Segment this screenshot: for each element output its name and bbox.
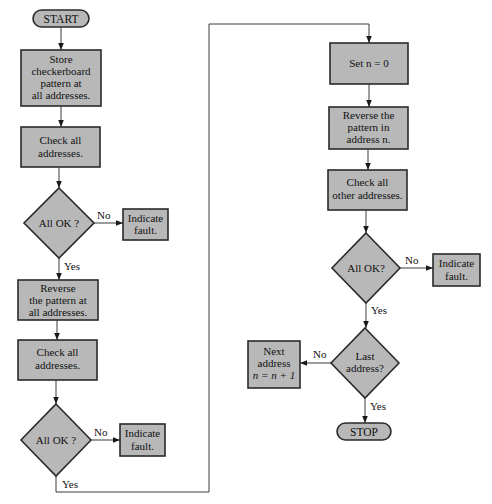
check2-line-1: Check all bbox=[37, 346, 79, 358]
last-yes-label: Yes bbox=[370, 400, 386, 412]
store-line-2: checkerboard bbox=[31, 65, 91, 77]
stop-terminal: STOP bbox=[337, 423, 391, 440]
fault3-line-2: fault. bbox=[445, 270, 468, 282]
reverse-n-line-2: pattern in bbox=[348, 121, 390, 133]
stop-label: STOP bbox=[350, 426, 378, 438]
start-terminal: START bbox=[33, 10, 89, 27]
fault2-line-1: Indicate bbox=[125, 427, 161, 439]
decision-last-address: Last address? bbox=[331, 328, 399, 398]
reverse-n-line-1: Reverse the bbox=[343, 109, 395, 121]
store-pattern-box: Store checkerboard pattern at all addres… bbox=[21, 50, 101, 106]
connector-decision2-yes-to-set-n bbox=[56, 24, 369, 492]
decision-all-ok-1: All OK ? bbox=[24, 188, 94, 258]
reverse-all-line-1: Reverse bbox=[40, 282, 76, 294]
check-other-line-2: other addresses. bbox=[332, 189, 403, 201]
decision2-yes-label: Yes bbox=[62, 478, 78, 490]
store-line-4: all addresses. bbox=[32, 89, 91, 101]
reverse-all-line-2: the pattern at bbox=[29, 294, 86, 306]
flowchart: START Store checkerboard pattern at all … bbox=[0, 0, 492, 504]
indicate-fault-box-1: Indicate fault. bbox=[123, 209, 168, 240]
check-other-addresses-box: Check all other addresses. bbox=[328, 170, 407, 210]
decision3-no-label: No bbox=[405, 254, 419, 266]
start-label: START bbox=[44, 13, 79, 25]
next-line-2: address bbox=[258, 357, 291, 369]
fault3-line-1: Indicate bbox=[439, 257, 475, 269]
store-line-1: Store bbox=[49, 53, 72, 65]
fault1-line-2: fault. bbox=[134, 224, 157, 236]
set-n-label: Set n = 0 bbox=[349, 57, 389, 69]
last-line-2: address? bbox=[346, 362, 384, 374]
next-line-1: Next bbox=[263, 345, 284, 357]
reverse-address-n-box: Reverse the pattern in address n. bbox=[329, 107, 408, 149]
check1-line-2: addresses. bbox=[38, 147, 83, 159]
fault1-line-1: Indicate bbox=[128, 212, 164, 224]
reverse-n-line-3: address n. bbox=[347, 133, 391, 145]
decision3-label: All OK? bbox=[347, 262, 385, 274]
check-other-line-1: Check all bbox=[347, 176, 389, 188]
check2-line-2: addresses. bbox=[35, 359, 80, 371]
store-line-3: pattern at bbox=[40, 77, 81, 89]
last-no-label: No bbox=[313, 348, 327, 360]
decision2-label: All OK ? bbox=[36, 434, 76, 446]
fault2-line-2: fault. bbox=[131, 440, 154, 452]
decision1-no-label: No bbox=[97, 209, 111, 221]
check-all-box-1: Check all addresses. bbox=[21, 127, 100, 167]
last-line-1: Last bbox=[356, 350, 375, 362]
reverse-all-line-3: all addresses. bbox=[29, 306, 88, 318]
decision-all-ok-2: All OK ? bbox=[21, 404, 91, 476]
decision3-yes-label: Yes bbox=[371, 304, 387, 316]
check-all-box-2: Check all addresses. bbox=[18, 340, 97, 380]
decision2-no-label: No bbox=[94, 426, 108, 438]
indicate-fault-box-3: Indicate fault. bbox=[433, 254, 480, 286]
decision1-yes-label: Yes bbox=[64, 260, 80, 272]
indicate-fault-box-2: Indicate fault. bbox=[120, 424, 165, 456]
next-address-box: Next address n = n + 1 bbox=[248, 341, 300, 388]
reverse-all-box: Reverse the pattern at all addresses. bbox=[18, 280, 98, 320]
next-line-3: n = n + 1 bbox=[253, 369, 295, 381]
decision1-label: All OK ? bbox=[39, 217, 79, 229]
set-n-box: Set n = 0 bbox=[330, 43, 408, 84]
check1-line-1: Check all bbox=[40, 134, 82, 146]
decision-all-ok-3: All OK? bbox=[332, 233, 400, 303]
